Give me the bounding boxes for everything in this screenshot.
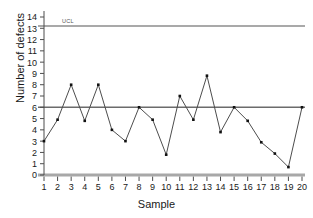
x-tick-label: 20	[297, 182, 307, 192]
y-tick-label: 3	[32, 137, 37, 147]
y-tick-label: 8	[32, 80, 37, 90]
data-point-marker	[301, 106, 304, 109]
x-tick-label: 8	[137, 182, 142, 192]
data-point-marker	[124, 140, 127, 143]
y-tick-label: 14	[27, 12, 37, 22]
x-tick-label: 13	[202, 182, 212, 192]
ucl-label: UCL	[62, 18, 74, 24]
data-point-marker	[260, 141, 263, 144]
x-tick-label: 10	[161, 182, 171, 192]
control-chart: 0123456789101112131412345678910111213141…	[0, 0, 313, 218]
x-tick-label: 14	[216, 182, 226, 192]
y-tick-label: 11	[28, 46, 37, 56]
data-point-marker	[111, 129, 114, 132]
data-point-marker	[138, 106, 141, 109]
y-tick-label: 13	[27, 24, 37, 34]
y-axis-title: Number of defects	[14, 0, 26, 133]
data-point-marker	[246, 120, 249, 123]
y-tick-label: 9	[32, 69, 37, 79]
y-tick-label: 0	[32, 170, 37, 180]
data-point-marker	[219, 131, 222, 134]
y-tick-label: 5	[32, 114, 37, 124]
x-tick-label: 7	[123, 182, 128, 192]
y-tick-label: 12	[27, 35, 37, 45]
y-tick-label: 7	[32, 91, 37, 101]
x-tick-label: 1	[41, 182, 46, 192]
x-tick-label: 9	[150, 182, 155, 192]
data-point-marker	[70, 83, 73, 86]
data-point-marker	[178, 95, 181, 98]
data-point-marker	[192, 118, 195, 121]
x-tick-label: 11	[175, 182, 184, 192]
x-tick-label: 3	[69, 182, 74, 192]
x-tick-label: 4	[82, 182, 87, 192]
x-tick-label: 6	[109, 182, 114, 192]
data-point-marker	[165, 153, 168, 156]
y-tick-label: 4	[32, 125, 37, 135]
x-tick-label: 12	[188, 182, 198, 192]
data-point-marker	[151, 118, 154, 121]
x-tick-label: 15	[229, 182, 239, 192]
x-tick-label: 17	[256, 182, 266, 192]
data-point-marker	[287, 166, 290, 169]
data-series-line	[44, 76, 302, 167]
x-tick-label: 19	[283, 182, 293, 192]
y-tick-label: 6	[32, 103, 37, 113]
chart-plot-area: 0123456789101112131412345678910111213141…	[0, 0, 313, 218]
data-point-marker	[206, 74, 209, 77]
y-tick-label: 10	[27, 58, 37, 68]
x-axis-title: Sample	[0, 198, 313, 210]
data-point-marker	[97, 83, 100, 86]
data-point-marker	[56, 118, 59, 121]
data-point-marker	[274, 152, 277, 155]
data-point-marker	[233, 106, 236, 109]
x-tick-label: 2	[55, 182, 60, 192]
x-tick-label: 18	[270, 182, 280, 192]
x-tick-label: 5	[96, 182, 101, 192]
y-tick-label: 1	[32, 159, 37, 169]
x-tick-label: 16	[243, 182, 253, 192]
data-point-marker	[83, 120, 86, 123]
data-point-marker	[43, 140, 46, 143]
y-tick-label: 2	[32, 148, 37, 158]
